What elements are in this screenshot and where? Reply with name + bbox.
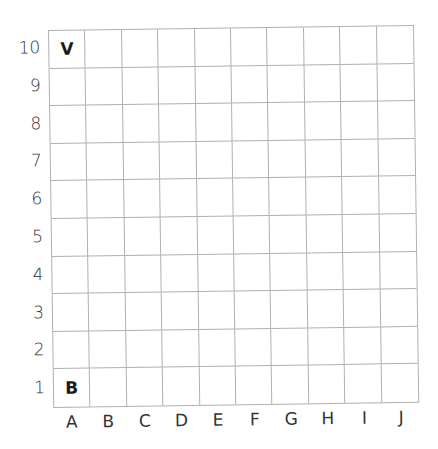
grid-cell-B10[interactable] — [85, 30, 122, 68]
grid-cell-D10[interactable] — [158, 29, 195, 67]
grid-cell-F7[interactable] — [233, 141, 270, 179]
grid-cell-A4[interactable] — [52, 256, 89, 294]
grid-cell-D8[interactable] — [159, 104, 196, 142]
grid-cell-A8[interactable] — [50, 106, 87, 144]
grid-cell-E2[interactable] — [199, 329, 236, 367]
grid-cell-G9[interactable] — [268, 65, 305, 103]
grid-cell-I8[interactable] — [341, 102, 378, 140]
grid-cell-A6[interactable] — [51, 181, 88, 219]
grid-cell-I7[interactable] — [342, 139, 379, 177]
grid-cell-B7[interactable] — [87, 143, 124, 181]
grid-cell-H10[interactable] — [304, 27, 341, 65]
grid-cell-A5[interactable] — [52, 218, 89, 256]
grid-cell-H5[interactable] — [306, 215, 343, 253]
grid-cell-I6[interactable] — [342, 177, 379, 215]
grid-cell-C6[interactable] — [124, 180, 161, 218]
grid-cell-G8[interactable] — [268, 103, 305, 141]
grid-cell-H4[interactable] — [307, 252, 344, 290]
grid-cell-E4[interactable] — [198, 254, 235, 292]
grid-cell-D9[interactable] — [159, 67, 196, 105]
grid-cell-A1[interactable]: B — [54, 369, 91, 407]
grid-cell-D2[interactable] — [162, 330, 199, 368]
grid-cell-J6[interactable] — [379, 176, 416, 214]
grid-cell-J10[interactable] — [377, 26, 414, 64]
grid-cell-I2[interactable] — [344, 327, 381, 365]
grid-cell-H7[interactable] — [305, 140, 342, 178]
grid-cell-G2[interactable] — [272, 328, 309, 366]
grid-cell-F10[interactable] — [231, 28, 268, 66]
grid-cell-I1[interactable] — [345, 365, 382, 403]
grid-cell-G3[interactable] — [271, 291, 308, 329]
grid-cell-A2[interactable] — [53, 331, 90, 369]
grid-cell-J7[interactable] — [378, 139, 415, 177]
grid-cell-H8[interactable] — [305, 102, 342, 140]
grid-cell-E5[interactable] — [197, 216, 234, 254]
grid-cell-F8[interactable] — [232, 103, 269, 141]
grid-cell-B4[interactable] — [89, 256, 126, 294]
grid-cell-D6[interactable] — [160, 179, 197, 217]
grid-cell-F3[interactable] — [235, 291, 272, 329]
grid-cell-E10[interactable] — [195, 28, 232, 66]
grid-cell-G4[interactable] — [271, 253, 308, 291]
grid-cell-J5[interactable] — [379, 214, 416, 252]
grid-cell-H1[interactable] — [309, 365, 346, 403]
grid-cell-C10[interactable] — [122, 29, 159, 67]
grid-cell-H2[interactable] — [308, 328, 345, 366]
grid-cell-E7[interactable] — [196, 141, 233, 179]
grid-cell-F6[interactable] — [233, 178, 270, 216]
grid-cell-I3[interactable] — [344, 290, 381, 328]
grid-cell-E8[interactable] — [196, 104, 233, 142]
grid-cell-F2[interactable] — [235, 329, 272, 367]
grid-cell-B3[interactable] — [89, 293, 126, 331]
grid-cell-J4[interactable] — [380, 251, 417, 289]
grid-cell-E6[interactable] — [197, 179, 234, 217]
grid-cell-B5[interactable] — [88, 218, 125, 256]
grid-cell-C4[interactable] — [125, 255, 162, 293]
grid-cell-D4[interactable] — [161, 255, 198, 293]
grid-cell-I9[interactable] — [341, 64, 378, 102]
grid-cell-B8[interactable] — [86, 105, 123, 143]
grid-cell-D3[interactable] — [162, 292, 199, 330]
grid-cell-F5[interactable] — [234, 216, 271, 254]
grid-cell-C2[interactable] — [126, 330, 163, 368]
grid-cell-C1[interactable] — [127, 368, 164, 406]
grid-cell-F1[interactable] — [236, 366, 273, 404]
grid-cell-A9[interactable] — [50, 68, 87, 106]
grid-cell-D5[interactable] — [161, 217, 198, 255]
grid-cell-B6[interactable] — [88, 180, 125, 218]
grid-cell-G1[interactable] — [272, 366, 309, 404]
grid-cell-J1[interactable] — [381, 364, 418, 402]
grid-cell-J3[interactable] — [380, 289, 417, 327]
grid-cell-B2[interactable] — [90, 331, 127, 369]
grid-cell-H9[interactable] — [304, 65, 341, 103]
grid-cell-G10[interactable] — [267, 27, 304, 65]
grid-cell-C8[interactable] — [123, 105, 160, 143]
grid-cell-C9[interactable] — [122, 67, 159, 105]
grid-cell-E9[interactable] — [195, 66, 232, 104]
grid-cell-H3[interactable] — [307, 290, 344, 328]
grid-cell-G5[interactable] — [270, 215, 307, 253]
grid-cell-J2[interactable] — [381, 327, 418, 365]
grid-cell-D7[interactable] — [160, 142, 197, 180]
grid-cell-J8[interactable] — [378, 101, 415, 139]
grid-cell-F9[interactable] — [232, 66, 269, 104]
grid-cell-H6[interactable] — [306, 177, 343, 215]
grid-cell-E1[interactable] — [199, 367, 236, 405]
grid-cell-E3[interactable] — [198, 292, 235, 330]
grid-cell-I5[interactable] — [343, 214, 380, 252]
grid-cell-G6[interactable] — [269, 178, 306, 216]
grid-cell-I4[interactable] — [343, 252, 380, 290]
grid-cell-I10[interactable] — [340, 26, 377, 64]
grid-cell-C7[interactable] — [123, 142, 160, 180]
grid-cell-B9[interactable] — [86, 68, 123, 106]
grid-cell-A10[interactable]: V — [49, 30, 86, 68]
grid-cell-F4[interactable] — [234, 254, 271, 292]
grid-cell-A7[interactable] — [51, 143, 88, 181]
grid-cell-J9[interactable] — [377, 63, 414, 101]
grid-cell-G7[interactable] — [269, 140, 306, 178]
grid-cell-D1[interactable] — [163, 367, 200, 405]
grid-cell-A3[interactable] — [53, 294, 90, 332]
grid-cell-B1[interactable] — [90, 368, 127, 406]
grid-cell-C3[interactable] — [125, 293, 162, 331]
grid-cell-C5[interactable] — [124, 217, 161, 255]
